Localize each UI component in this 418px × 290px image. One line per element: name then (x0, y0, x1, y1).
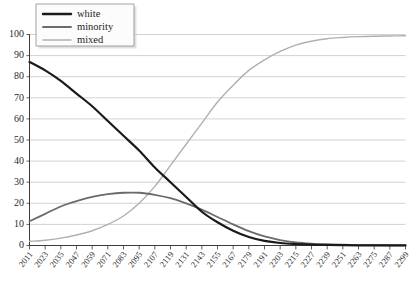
x-tick-label: 2023 (32, 250, 50, 270)
y-tick-label: 50 (14, 134, 24, 145)
x-tick-label: 2251 (330, 250, 348, 270)
y-tick-label: 70 (14, 92, 24, 103)
x-tick-label: 2155 (204, 250, 222, 270)
y-tick-label: 90 (14, 49, 24, 60)
x-tick-label: 2179 (236, 250, 254, 270)
x-tick-label: 2119 (157, 250, 175, 269)
y-axis: 0102030405060708090100 (9, 28, 30, 250)
x-tick-label: 2059 (79, 250, 97, 270)
legend-label-mixed: mixed (77, 34, 104, 45)
x-tick-label: 2263 (345, 250, 363, 270)
y-tick-label: 60 (14, 113, 24, 124)
x-tick-label: 2203 (267, 250, 285, 270)
y-tick-label: 20 (14, 197, 24, 208)
x-tick-label: 2083 (110, 250, 128, 270)
x-tick-label: 2107 (142, 250, 160, 270)
y-tick-label: 80 (14, 70, 24, 81)
series-line-mixed (30, 36, 406, 242)
x-tick-label: 2215 (283, 250, 301, 270)
x-tick-label: 2227 (298, 250, 316, 270)
legend-label-minority: minority (77, 21, 114, 32)
x-tick-label: 2287 (377, 250, 395, 270)
x-tick-label: 2191 (251, 250, 269, 270)
x-tick-label: 2239 (314, 250, 332, 270)
x-tick-label: 2095 (126, 250, 144, 270)
chart-legend: whiteminoritymixed (36, 4, 137, 49)
y-tick-label: 30 (14, 176, 24, 187)
x-tick-label: 2143 (189, 250, 207, 270)
series-line-minority (30, 193, 406, 246)
y-tick-label: 40 (14, 155, 24, 166)
x-tick-label: 2071 (95, 250, 113, 270)
line-chart: 0102030405060708090100 20112023203520472… (0, 0, 418, 290)
x-tick-label: 2299 (392, 250, 410, 270)
chart-container: 0102030405060708090100 20112023203520472… (0, 0, 418, 290)
x-tick-label: 2035 (48, 250, 66, 270)
x-axis: 2011202320352047205920712083209521072119… (16, 246, 410, 270)
legend-label-white: white (77, 8, 101, 19)
x-tick-label: 2131 (173, 250, 191, 270)
x-tick-label: 2011 (16, 250, 34, 269)
x-tick-label: 2275 (361, 250, 379, 270)
y-tick-label: 100 (9, 28, 24, 39)
y-tick-label: 0 (19, 239, 24, 250)
series-lines (30, 36, 406, 246)
gridlines (30, 35, 406, 246)
x-tick-label: 2047 (63, 250, 81, 270)
y-tick-label: 10 (14, 218, 24, 229)
x-tick-label: 2167 (220, 250, 238, 270)
